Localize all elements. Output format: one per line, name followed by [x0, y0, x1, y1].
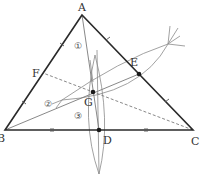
label-c: C [191, 135, 199, 148]
label-d: D [103, 134, 112, 147]
label-f: F [32, 67, 40, 80]
label-g: G [84, 96, 93, 109]
region-label-2: ② [44, 99, 52, 109]
median-cf [43, 73, 193, 130]
point-e [137, 72, 142, 77]
triangle-diagram: A B C D E F G ① ② ③ [0, 0, 200, 178]
label-b: B [0, 132, 5, 145]
median-be [5, 74, 139, 130]
label-e: E [130, 56, 138, 69]
region-label-1: ① [74, 41, 82, 51]
tick-marks [22, 37, 169, 132]
point-d [97, 128, 102, 133]
region-label-3: ③ [74, 111, 82, 121]
label-a: A [77, 1, 87, 14]
construction-arcs-ac [52, 26, 185, 108]
median-ad [82, 15, 99, 130]
point-g [91, 90, 96, 95]
